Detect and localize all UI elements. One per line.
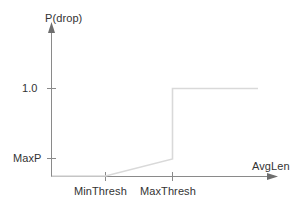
- x-axis-arrow-icon: [267, 173, 278, 180]
- y-tick-label-maxp: MaxP: [13, 152, 42, 164]
- x-tick-label-maxthresh: MaxThresh: [140, 185, 196, 197]
- red-drop-probability-chart: P(drop) AvgLen 1.0 MaxP MinThresh MaxThr…: [0, 0, 308, 212]
- drop-probability-curve: [52, 89, 258, 177]
- x-axis-label: AvgLen: [252, 160, 290, 172]
- chart-canvas: [0, 0, 308, 212]
- y-tick-label-one: 1.0: [22, 82, 38, 94]
- y-axis: [48, 22, 55, 177]
- y-axis-label: P(drop): [45, 12, 82, 24]
- x-tick-label-minthresh: MinThresh: [74, 185, 127, 197]
